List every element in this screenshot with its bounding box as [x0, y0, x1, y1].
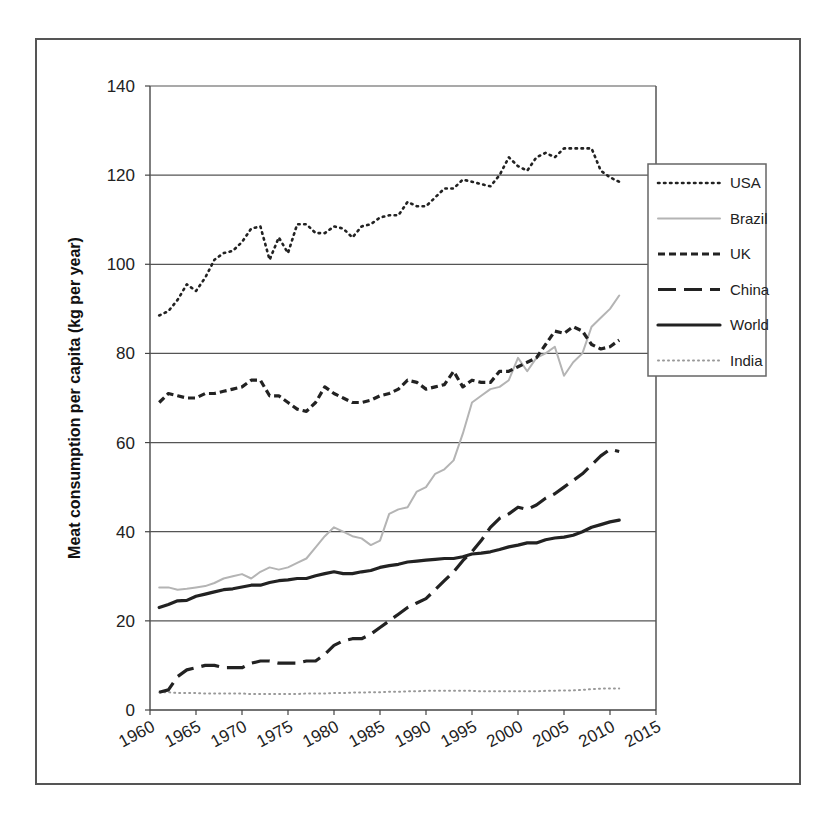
- x-tick-label: 1970: [208, 717, 250, 752]
- legend-label-world: World: [730, 316, 769, 333]
- x-tick-label: 1990: [392, 717, 434, 752]
- y-tick-label: 80: [116, 344, 135, 363]
- x-tick-label: 1995: [438, 717, 480, 752]
- y-tick-label: 20: [116, 612, 135, 631]
- series-line-usa: [159, 148, 619, 315]
- series-line-uk: [159, 327, 619, 412]
- y-tick-label: 40: [116, 523, 135, 542]
- x-axis: 1960196519701975198019851990199520002005…: [116, 710, 664, 751]
- x-tick-label: 2015: [622, 717, 664, 752]
- x-tick-label: 1985: [346, 717, 388, 752]
- y-tick-label: 60: [116, 434, 135, 453]
- legend-label-india: India: [730, 352, 763, 369]
- line-chart: 020406080100120140 196019651970197519801…: [0, 0, 829, 821]
- x-tick-label: 1960: [116, 717, 158, 752]
- x-tick-label: 2005: [530, 717, 572, 752]
- x-tick-label: 2010: [576, 717, 618, 752]
- legend-box: [648, 164, 766, 376]
- series-line-india: [159, 689, 619, 694]
- legend-label-china: China: [730, 281, 770, 298]
- y-tick-label: 0: [126, 701, 135, 720]
- series-line-china: [159, 449, 619, 692]
- y-tick-label: 100: [107, 255, 135, 274]
- x-tick-label: 1980: [300, 717, 342, 752]
- x-tick-label: 1975: [254, 717, 296, 752]
- data-series: [159, 148, 619, 694]
- legend-label-usa: USA: [730, 174, 761, 191]
- x-tick-label: 1965: [162, 717, 204, 752]
- plot-area-border: [150, 86, 656, 710]
- legend-label-brazil: Brazil: [730, 210, 768, 227]
- y-axis: 020406080100120140: [107, 77, 150, 720]
- x-tick-label: 2000: [484, 717, 526, 752]
- y-tick-label: 140: [107, 77, 135, 96]
- series-line-world: [159, 520, 619, 607]
- legend-label-uk: UK: [730, 245, 751, 262]
- y-axis-title: Meat consumption per capita (kg per year…: [66, 237, 83, 559]
- y-tick-label: 120: [107, 166, 135, 185]
- gridlines: [150, 86, 656, 621]
- legend: USABrazilUKChinaWorldIndia: [648, 164, 770, 376]
